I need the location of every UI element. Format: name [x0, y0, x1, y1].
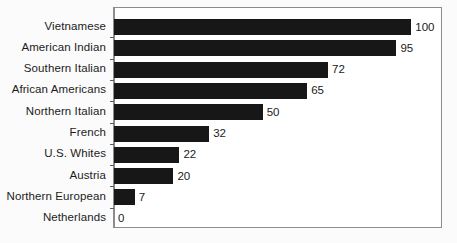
- bar-value-label: 20: [177, 170, 190, 183]
- category-label: Southern Italian: [0, 62, 106, 75]
- plot-area: 100 95 72 65 50 32 22 20 7 0: [114, 8, 441, 227]
- bar: [114, 104, 263, 120]
- category-label: Vietnamese: [0, 20, 106, 33]
- category-label: Netherlands: [0, 211, 106, 224]
- category-axis: Vietnamese American Indian Southern Ital…: [0, 7, 110, 228]
- bar-chart: Vietnamese American Indian Southern Ital…: [0, 0, 457, 243]
- bar: [114, 62, 328, 78]
- category-label: French: [0, 126, 106, 139]
- category-label: American Indian: [0, 41, 106, 54]
- axis-tick: [110, 186, 114, 187]
- category-label: African Americans: [0, 83, 106, 96]
- axis-tick: [110, 101, 114, 102]
- bar-value-label: 22: [183, 148, 196, 161]
- bar: [114, 168, 173, 184]
- category-label: U.S. Whites: [0, 147, 106, 160]
- category-label: Northern Italian: [0, 105, 106, 118]
- bar: [114, 189, 135, 205]
- axis-tick: [110, 165, 114, 166]
- bar: [114, 83, 307, 99]
- axis-tick: [110, 144, 114, 145]
- axis-tick: [110, 80, 114, 81]
- bar-value-label: 100: [415, 21, 434, 34]
- bar-value-label: 72: [332, 63, 345, 76]
- bar-value-label: 95: [400, 42, 413, 55]
- axis-tick: [110, 37, 114, 38]
- bar-value-label: 32: [213, 127, 226, 140]
- bar: [114, 147, 179, 163]
- axis-tick: [110, 59, 114, 60]
- category-label: Northern European: [0, 190, 106, 203]
- bar: [114, 126, 209, 142]
- bar-value-label: 0: [118, 212, 124, 225]
- axis-tick: [110, 208, 114, 209]
- category-label: Austria: [0, 169, 106, 182]
- plot-frame: 100 95 72 65 50 32 22 20 7 0: [113, 7, 442, 228]
- bar: [114, 40, 396, 56]
- bar-value-label: 65: [311, 84, 324, 97]
- bar: [114, 19, 411, 35]
- bar-value-label: 7: [139, 191, 145, 204]
- bar-value-label: 50: [267, 106, 280, 119]
- axis-tick: [110, 123, 114, 124]
